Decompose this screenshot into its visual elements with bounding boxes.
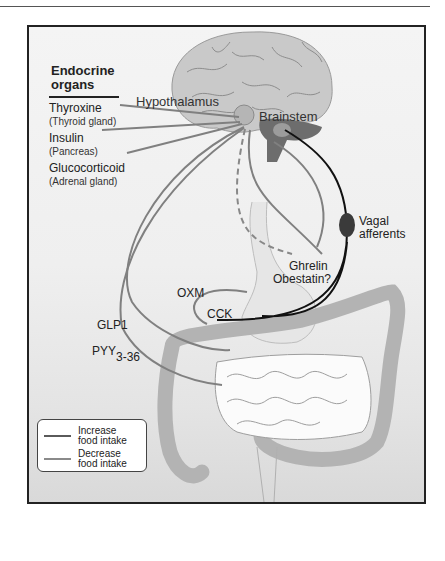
- small-intestine-icon: [215, 354, 371, 439]
- thyroid-gland-label: (Thyroid gland): [49, 116, 116, 127]
- thyroxine-label: Thyroxine: [49, 101, 102, 115]
- legend: Increasefood intake Decreasefood intake: [37, 419, 147, 472]
- vagal-afferents-label: Vagal afferents: [359, 215, 405, 241]
- legend-increase: Increasefood intake: [44, 426, 127, 446]
- figure-frame: Endocrine organs Thyroxine (Thyroid glan…: [27, 25, 426, 504]
- pancreas-label: (Pancreas): [49, 146, 98, 157]
- legend-increase-swatch: [44, 435, 71, 437]
- brainstem-label: Brainstem: [259, 109, 318, 124]
- glp1-label: GLP1: [97, 318, 128, 332]
- adrenal-gland-label: (Adrenal gland): [49, 176, 117, 187]
- pyy-label: PYY3-36: [92, 344, 140, 358]
- ghrelin-label: Ghrelin: [289, 259, 328, 273]
- title-underline: [49, 96, 119, 98]
- legend-decrease-swatch: [44, 458, 71, 460]
- endocrine-organs-title: Endocrine organs: [51, 64, 115, 92]
- legend-decrease: Decreasefood intake: [44, 449, 127, 469]
- glucocorticoid-label: Glucocorticoid: [49, 161, 125, 175]
- cck-label: CCK: [207, 307, 232, 321]
- page-header-rule: [0, 6, 430, 7]
- insulin-label: Insulin: [49, 131, 84, 145]
- obestatin-label: Obestatin?: [273, 272, 331, 286]
- hypothalamus-label: Hypothalamus: [136, 94, 219, 109]
- vagal-ganglion-icon: [339, 213, 355, 237]
- oxm-label: OXM: [177, 286, 204, 300]
